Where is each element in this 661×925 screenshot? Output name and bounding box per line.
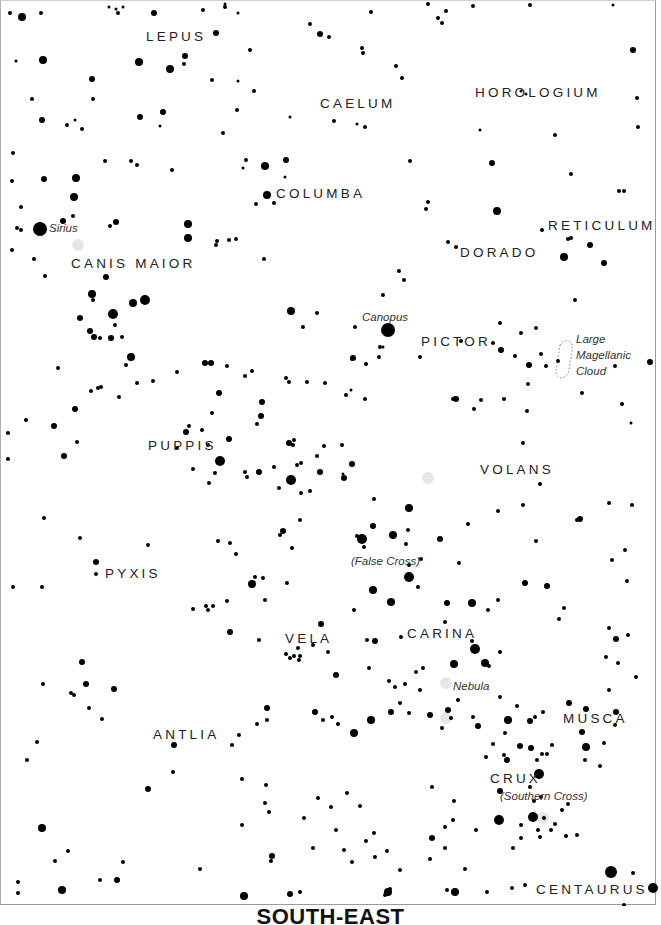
- star: [479, 129, 482, 132]
- star: [243, 470, 247, 474]
- star: [243, 374, 247, 378]
- star: [648, 883, 658, 893]
- star: [230, 743, 234, 747]
- star: [445, 707, 451, 713]
- star: [364, 362, 368, 366]
- star: [204, 604, 208, 608]
- star: [255, 722, 259, 726]
- star: [511, 846, 515, 850]
- star: [311, 846, 315, 850]
- star: [542, 816, 546, 820]
- star: [358, 804, 362, 808]
- constellation-label-horologium: HOROLOGIUM: [475, 86, 601, 100]
- star: [332, 119, 336, 123]
- star: [272, 465, 276, 469]
- star: [426, 2, 430, 6]
- star: [355, 534, 359, 538]
- star: [87, 328, 93, 334]
- star: [583, 758, 587, 762]
- star: [263, 191, 271, 199]
- star: [216, 539, 220, 543]
- constellation-label-vela: VELA: [285, 632, 332, 646]
- star: [299, 491, 303, 495]
- star: [184, 234, 192, 242]
- constellation-label-caelum: CAELUM: [320, 97, 395, 111]
- star: [41, 176, 47, 182]
- star: [237, 733, 241, 737]
- star: [504, 757, 510, 763]
- star: [296, 646, 300, 650]
- star: [367, 716, 375, 724]
- star: [145, 786, 151, 792]
- star: [388, 709, 394, 715]
- star: [636, 125, 640, 129]
- star: [10, 179, 14, 183]
- star: [75, 440, 79, 444]
- star: [634, 675, 638, 679]
- star: [389, 531, 397, 539]
- star: [521, 503, 525, 507]
- star: [91, 97, 95, 101]
- star: [322, 444, 326, 448]
- star: [39, 56, 47, 64]
- star: [259, 399, 265, 405]
- star: [367, 666, 371, 670]
- star: [201, 8, 205, 12]
- star: [336, 722, 340, 726]
- star: [287, 307, 295, 315]
- star: [330, 715, 334, 719]
- star: [362, 545, 366, 549]
- star: [298, 654, 302, 658]
- star: [71, 214, 75, 218]
- star: [334, 828, 338, 832]
- star: [72, 174, 80, 182]
- star: [297, 658, 301, 662]
- star: [308, 489, 312, 493]
- star: [326, 650, 330, 654]
- star: [519, 836, 523, 840]
- star: [277, 486, 281, 490]
- star: [244, 158, 248, 162]
- star: [72, 406, 78, 412]
- star: [369, 586, 377, 594]
- star: [269, 859, 273, 863]
- star: [191, 607, 195, 611]
- star: [221, 131, 225, 135]
- star: [40, 585, 44, 589]
- star: [566, 237, 570, 241]
- star: [562, 606, 566, 610]
- star: [402, 278, 406, 282]
- star: [463, 867, 467, 871]
- star: [316, 796, 320, 800]
- star: [315, 454, 319, 458]
- star: [87, 706, 91, 710]
- star: [292, 438, 296, 442]
- star: [224, 3, 227, 6]
- star: [79, 659, 85, 665]
- star: [361, 51, 365, 55]
- star: [381, 293, 385, 297]
- star: [99, 385, 103, 389]
- star: [321, 718, 325, 722]
- star: [620, 402, 624, 406]
- star: [170, 168, 174, 172]
- star: [564, 834, 568, 838]
- star: [398, 868, 402, 872]
- star: [269, 853, 275, 859]
- star: [202, 360, 208, 366]
- star: [350, 357, 354, 361]
- star: [468, 599, 476, 607]
- direction-title: SOUTH-EAST: [0, 906, 661, 925]
- star: [6, 457, 10, 461]
- constellation-label-canis-maior: CANIS MAIOR: [71, 257, 195, 271]
- star: [457, 561, 461, 565]
- star: [404, 572, 414, 582]
- star: [474, 828, 478, 832]
- star: [25, 758, 29, 762]
- star: [240, 892, 248, 900]
- star: [264, 705, 270, 711]
- star: [120, 335, 124, 339]
- star: [171, 770, 175, 774]
- star: [298, 890, 302, 894]
- star: [278, 533, 282, 537]
